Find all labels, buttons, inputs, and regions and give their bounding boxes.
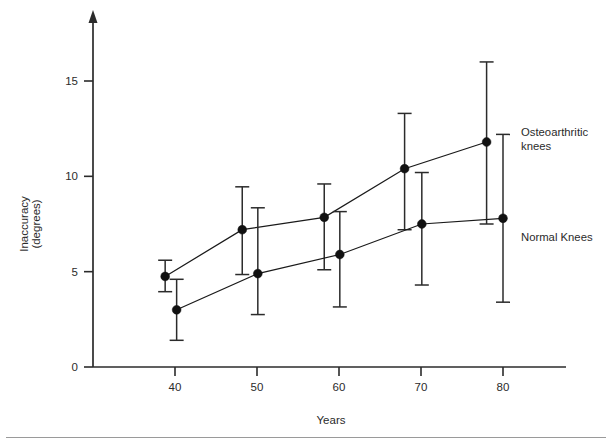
x-tick-label-40: 40 [169,381,182,393]
y-tick-label-0: 0 [72,361,78,373]
x-tick-label-80: 80 [497,381,510,393]
series-label-osteoarthritic-knees: Osteoarthritic knees [521,126,588,153]
bottom-divider-rule [6,437,606,438]
chart-figure: 0510154050607080YearsInaccuracy(degrees)… [0,0,612,445]
series-line-osteoarthritic-knees [165,142,486,276]
y-axis-title-line1: Inaccuracy [18,196,30,252]
x-axis-title: Years [317,414,346,426]
y-axis-title-line2: (degrees) [30,199,42,248]
y-axis-arrowhead [89,10,98,23]
y-tick-label-10: 10 [65,170,78,182]
data-point-osteoarthritic-knees-4 [482,138,491,147]
y-tick-label-5: 5 [72,266,78,278]
series-label-normal-knees: Normal Knees [521,231,593,245]
data-point-osteoarthritic-knees-3 [400,164,409,173]
x-tick-label-70: 70 [415,381,428,393]
data-point-normal-knees-0 [172,305,181,314]
data-point-osteoarthritic-knees-0 [161,272,170,281]
y-tick-label-15: 15 [65,75,78,87]
line-chart-with-error-bars: 0510154050607080YearsInaccuracy(degrees) [0,0,612,445]
data-point-osteoarthritic-knees-2 [320,213,329,222]
x-tick-label-60: 60 [333,381,346,393]
data-point-normal-knees-1 [253,269,262,278]
data-point-normal-knees-3 [417,220,426,229]
x-tick-label-50: 50 [251,381,264,393]
data-point-osteoarthritic-knees-1 [238,225,247,234]
data-point-normal-knees-2 [335,250,344,259]
data-point-normal-knees-4 [499,214,508,223]
